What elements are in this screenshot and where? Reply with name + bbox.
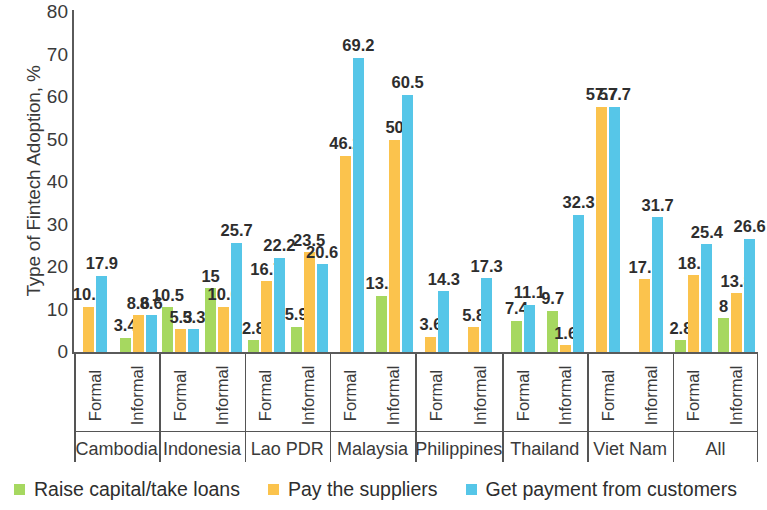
bar-value-label: 14.3: [428, 271, 460, 288]
subcategory-label-text: Informal: [384, 366, 403, 426]
bar-pay_suppliers[interactable]: [688, 275, 699, 352]
bar-slot: 17.1: [639, 12, 650, 352]
bar-pay_suppliers[interactable]: [261, 281, 272, 352]
bar-raise_capital[interactable]: [291, 327, 302, 352]
bar-get_payment[interactable]: [317, 264, 328, 352]
subcategory-label-text: Formal: [427, 370, 446, 421]
category-group-lao-pdr: FormalInformalLao PDR: [245, 354, 330, 466]
bar-slot: 25.7: [231, 12, 242, 352]
bar-subgroup-formal: 10.55.35.3: [160, 12, 203, 352]
y-axis-tick-labels: 01020304050607080: [0, 0, 68, 366]
subcategory-label-text: Formal: [171, 370, 190, 421]
bar-get_payment[interactable]: [524, 305, 535, 352]
bar-slot: 18.1: [688, 12, 699, 352]
country-label-text: Cambodia: [76, 439, 158, 460]
bar-pay_suppliers[interactable]: [83, 307, 94, 352]
bar-get_payment[interactable]: [402, 95, 413, 352]
country-label: Lao PDR: [245, 431, 330, 466]
subcategory-label-formal: Formal: [673, 354, 716, 431]
bar-get_payment[interactable]: [481, 278, 492, 352]
bar-slot: 10.7: [83, 12, 94, 352]
country-label: Cambodia: [74, 431, 159, 466]
bar-get_payment[interactable]: [652, 217, 663, 352]
bar-pay_suppliers[interactable]: [389, 140, 400, 353]
subcategory-label-informal: Informal: [715, 354, 758, 431]
bar-raise_capital[interactable]: [376, 296, 387, 352]
bar-slot: 5.3: [175, 12, 186, 352]
bar-raise_capital[interactable]: [120, 338, 131, 352]
subcategory-row: FormalInformal: [502, 354, 587, 431]
bar-pay_suppliers[interactable]: [596, 107, 607, 352]
bar-slot: 57.7: [609, 12, 620, 352]
bar-slot: 5.3: [188, 12, 199, 352]
subcategory-label-text: Formal: [256, 370, 275, 421]
category-group-philippines: FormalInformalPhilippines: [415, 354, 502, 466]
legend-item-get-payment[interactable]: Get payment from customers: [466, 478, 737, 501]
bar-slot: 32.3: [573, 12, 584, 352]
legend-item-raise-capital[interactable]: Raise capital/take loans: [14, 478, 240, 501]
y-tick-label: 0: [8, 341, 68, 363]
subcategory-label-formal: Formal: [245, 354, 288, 431]
bar-subgroup-formal: 57.757.7: [587, 12, 630, 352]
bar-slot: 22.2: [274, 12, 285, 352]
bar-pay_suppliers[interactable]: [133, 315, 144, 352]
bar-raise_capital[interactable]: [248, 340, 259, 352]
subcategory-label-informal: Informal: [545, 354, 588, 431]
bar-value-label: 8: [719, 298, 728, 315]
subcategory-label-text: Informal: [557, 366, 576, 426]
category-label-band: FormalInformalCambodiaFormalInformalIndo…: [74, 354, 758, 466]
bar-get_payment[interactable]: [146, 315, 157, 352]
subcategory-row: FormalInformal: [159, 354, 244, 431]
bar-slot: 57.7: [596, 12, 607, 352]
bar-group-malaysia: 46.269.213.25060.5: [331, 12, 417, 352]
bar-get_payment[interactable]: [231, 243, 242, 352]
subcategory-label-text: Informal: [214, 366, 233, 426]
bar-get_payment[interactable]: [438, 291, 449, 352]
bar-pay_suppliers[interactable]: [340, 156, 351, 352]
country-label-text: All: [705, 439, 725, 460]
legend-label: Get payment from customers: [486, 478, 737, 501]
bar-get_payment[interactable]: [188, 329, 199, 352]
bar-slot: 31.7: [652, 12, 663, 352]
country-label: All: [673, 431, 758, 466]
bar-value-label: 17.9: [86, 255, 118, 272]
subcategory-label-formal: Formal: [502, 354, 545, 431]
category-group-cambodia: FormalInformalCambodia: [74, 354, 159, 466]
bar-slot: 13.2: [376, 12, 387, 352]
country-label-text: Thailand: [510, 439, 579, 460]
subcategory-row: FormalInformal: [587, 354, 672, 431]
bar-pay_suppliers[interactable]: [425, 337, 436, 352]
bar-pay_suppliers[interactable]: [175, 329, 186, 352]
bar-pay_suppliers[interactable]: [468, 327, 479, 352]
subcategory-label-text: Informal: [642, 366, 661, 426]
bar-get_payment[interactable]: [96, 276, 107, 352]
subcategory-row: FormalInformal: [673, 354, 758, 431]
bar-subgroup-formal: 2.816.722.2: [245, 12, 288, 352]
bar-group-thailand: 7.411.19.71.632.3: [502, 12, 588, 352]
bar-pay_suppliers[interactable]: [304, 252, 315, 352]
bar-groups-container: 10.717.93.48.68.610.55.35.31510.625.72.8…: [74, 12, 758, 352]
subcategory-label-formal: Formal: [74, 354, 117, 431]
bar-get_payment[interactable]: [274, 258, 285, 352]
bar-get_payment[interactable]: [353, 58, 364, 352]
bar-get_payment[interactable]: [573, 215, 584, 352]
category-group-malaysia: FormalInformalMalaysia: [330, 354, 415, 466]
bar-get_payment[interactable]: [609, 107, 620, 352]
legend-item-pay-suppliers[interactable]: Pay the suppliers: [268, 478, 438, 501]
bar-group-viet-nam: 57.757.717.131.7: [587, 12, 673, 352]
bar-raise_capital[interactable]: [675, 340, 686, 352]
subcategory-label-formal: Formal: [330, 354, 373, 431]
bar-get_payment[interactable]: [701, 244, 712, 352]
bar-pay_suppliers[interactable]: [731, 293, 742, 352]
bar-pay_suppliers[interactable]: [218, 307, 229, 352]
bar-value-label: 15: [201, 268, 219, 285]
bar-slot: 10.5: [162, 12, 173, 352]
bar-value-label: 69.2: [342, 37, 374, 54]
bar-pay_suppliers[interactable]: [639, 279, 650, 352]
bar-pay_suppliers[interactable]: [560, 345, 571, 352]
bar-raise_capital[interactable]: [718, 318, 729, 352]
bar-subgroup-informal: 17.131.7: [630, 12, 673, 352]
bar-raise_capital[interactable]: [511, 321, 522, 352]
bar-subgroup-informal: 813.826.6: [715, 12, 758, 352]
bar-get_payment[interactable]: [744, 239, 755, 352]
